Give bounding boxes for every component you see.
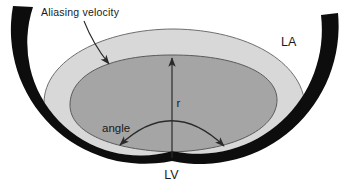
angle-label: angle xyxy=(102,122,130,134)
lv-label: LV xyxy=(164,168,179,182)
aliasing-velocity-label: Aliasing velocity xyxy=(41,6,120,18)
inner-velocity-shell xyxy=(70,55,277,152)
pisa-diagram: Aliasing velocity LA r angle LV xyxy=(0,0,342,187)
la-label: LA xyxy=(281,35,297,49)
radius-label: r xyxy=(177,97,181,109)
pisa-diagram-canvas: Aliasing velocity LA r angle LV xyxy=(0,0,342,187)
